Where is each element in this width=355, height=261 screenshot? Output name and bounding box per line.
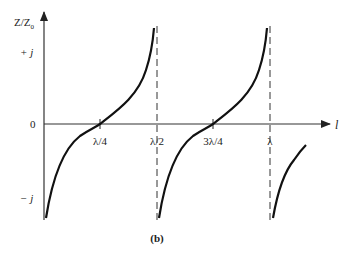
x-axis-label: l [335, 118, 339, 132]
y-tick-minus-j: − j [20, 192, 33, 204]
y-axis-label: Z/Z0 [14, 16, 35, 31]
impedance-diagram: Z/Z0 + j 0 − j λ/4 λ/2 3λ/4 λ l (b) [0, 0, 355, 261]
y-tick-zero: 0 [30, 118, 36, 130]
x-tick-three-quarter-lambda: 3λ/4 [203, 135, 223, 147]
y-tick-plus-j: + j [20, 46, 33, 58]
impedance-curve-2 [159, 28, 267, 218]
x-tick-half-lambda: λ/2 [150, 135, 164, 147]
x-tick-lambda: λ [267, 135, 273, 147]
impedance-curve-3 [273, 145, 306, 218]
figure-caption: (b) [150, 232, 164, 245]
x-tick-quarter-lambda: λ/4 [93, 135, 107, 147]
impedance-curve-1 [46, 28, 154, 218]
